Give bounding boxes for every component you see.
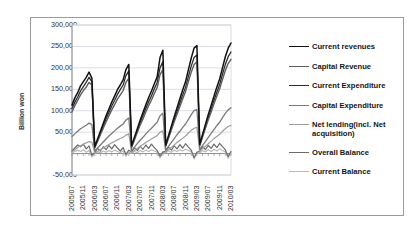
x-tick-label: 2009/11 xyxy=(216,179,223,217)
x-tick-label: 2007/07 xyxy=(136,179,143,217)
x-tick-label: 2009/07 xyxy=(204,179,211,217)
legend-label: Capital Revenue xyxy=(312,62,371,71)
x-tick-label: 2008/03 xyxy=(159,179,166,217)
legend-item: Overall Balance xyxy=(289,148,407,158)
legend-item: Capital Expenditure xyxy=(289,101,407,111)
legend-line-swatch xyxy=(289,101,309,111)
legend-line-icon xyxy=(289,171,309,172)
chart-legend: Current revenuesCapital RevenueCurrent E… xyxy=(289,42,407,187)
x-tick-label: 2008/07 xyxy=(170,179,177,217)
x-tick-label: 2005/07 xyxy=(68,179,75,217)
legend-line-icon xyxy=(289,152,309,153)
legend-item: Net lending(incl. Net acquisition) xyxy=(289,120,407,138)
legend-label: Overall Balance xyxy=(312,148,369,157)
x-tick-label: 2008/11 xyxy=(182,179,189,217)
x-tick-label: 2005/11 xyxy=(79,179,86,217)
legend-line-swatch xyxy=(289,81,309,91)
x-tick-label: 2007/11 xyxy=(148,179,155,217)
x-axis-tick-labels: 2005/072005/112006/032006/072006/112007/… xyxy=(31,179,281,224)
legend-line-icon xyxy=(289,46,309,47)
x-tick-label: 2010/03 xyxy=(227,179,234,217)
x-tick-label: 2006/11 xyxy=(113,179,120,217)
legend-line-swatch xyxy=(289,62,309,72)
legend-label: Current Expenditure xyxy=(312,81,385,90)
x-tick-label: 2009/03 xyxy=(193,179,200,217)
legend-line-icon xyxy=(289,124,309,125)
legend-item: Current revenues xyxy=(289,42,407,52)
x-tick-label: 2006/07 xyxy=(102,179,109,217)
legend-line-swatch xyxy=(289,42,309,52)
chart-frame: 300,000250,000200,000150,000100,00050,00… xyxy=(30,17,404,216)
legend-line-icon xyxy=(289,66,309,67)
legend-line-swatch xyxy=(289,167,309,177)
chart-screenshot: Billion won 300,000250,000200,000150,000… xyxy=(0,0,407,244)
x-tick-label: 2006/03 xyxy=(91,179,98,217)
plot-area: 2005/072005/112006/032006/072006/112007/… xyxy=(31,18,234,182)
legend-label: Current revenues xyxy=(312,42,375,51)
legend-line-icon xyxy=(289,85,309,86)
legend-item: Current Expenditure xyxy=(289,81,407,91)
legend-line-swatch xyxy=(289,120,309,130)
legend-line-swatch xyxy=(289,148,309,158)
plot-svg xyxy=(31,18,234,182)
legend-item: Current Balance xyxy=(289,167,407,177)
legend-label: Current Balance xyxy=(312,167,371,176)
legend-label: Net lending(incl. Net acquisition) xyxy=(312,120,407,138)
legend-line-icon xyxy=(289,105,309,106)
legend-item: Capital Revenue xyxy=(289,62,407,72)
legend-label: Capital Expenditure xyxy=(312,101,383,110)
x-tick-label: 2007/03 xyxy=(125,179,132,217)
